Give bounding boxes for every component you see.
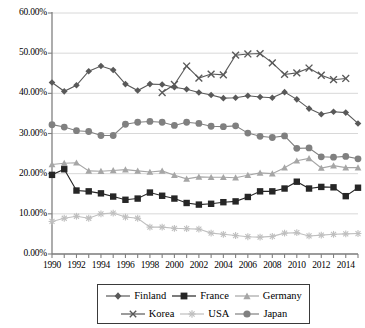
data-point: [110, 193, 116, 199]
data-point: [134, 195, 140, 201]
data-point: [281, 185, 287, 191]
line-chart: 0.00%10.00%20.00%30.00%40.00%50.00%60.00…: [0, 0, 365, 328]
data-point: [330, 184, 336, 190]
data-point: [73, 187, 79, 193]
data-point: [269, 94, 276, 101]
data-point: [98, 132, 105, 139]
data-point: [232, 198, 238, 204]
y-axis-tick-label: 0.00%: [0, 248, 47, 258]
data-point: [61, 166, 67, 172]
data-point: [208, 92, 215, 99]
plot-canvas: [0, 0, 365, 328]
data-point: [220, 199, 226, 205]
legend-label-japan: Japan: [263, 309, 287, 320]
data-point: [244, 233, 251, 240]
data-point: [294, 179, 300, 185]
legend-label-usa: USA: [208, 309, 229, 320]
legend-item-usa: USA: [179, 308, 229, 320]
data-point: [257, 94, 264, 101]
data-point: [330, 154, 337, 161]
data-point: [171, 225, 178, 232]
y-axis-tick-label: 20.00%: [0, 168, 47, 178]
data-point: [159, 119, 166, 126]
data-point: [86, 188, 92, 194]
germany-marker-icon: [234, 290, 260, 302]
series-japan: [49, 118, 362, 162]
data-point: [98, 190, 104, 196]
japan-marker-icon: [234, 308, 260, 320]
data-point: [134, 87, 141, 94]
data-point: [232, 122, 239, 129]
data-point: [159, 81, 166, 88]
legend-label-germany: Germany: [263, 291, 302, 302]
data-point: [318, 153, 325, 160]
data-point: [171, 122, 178, 129]
data-point: [171, 195, 177, 201]
legend-label-france: France: [200, 291, 229, 302]
series-finland: [49, 63, 362, 127]
chart-legend: Finland France Germany: [97, 284, 310, 324]
data-point: [330, 231, 337, 238]
legend-item-finland: Finland: [105, 290, 166, 302]
data-point: [159, 89, 166, 96]
data-point: [269, 188, 275, 194]
data-point: [330, 162, 337, 168]
data-point: [330, 109, 337, 116]
data-point: [220, 95, 227, 102]
data-point: [61, 124, 68, 131]
data-point: [98, 210, 105, 217]
data-point: [306, 65, 313, 72]
data-point: [73, 127, 80, 134]
data-point: [183, 119, 190, 126]
data-point: [306, 145, 313, 152]
data-point: [208, 201, 214, 207]
legend-row-2: Korea USA Jap: [98, 305, 309, 323]
x-axis-tick-label: 2014: [330, 260, 362, 270]
data-point: [257, 234, 264, 241]
legend-label-finland: Finland: [134, 291, 166, 302]
france-marker-icon: [171, 290, 197, 302]
data-point: [232, 232, 239, 239]
data-point: [220, 231, 227, 238]
data-point: [306, 233, 313, 240]
korea-marker-icon: [120, 308, 146, 320]
data-point: [49, 218, 56, 225]
data-point: [122, 121, 129, 128]
data-point: [134, 119, 141, 126]
data-point: [245, 194, 251, 200]
data-point: [293, 145, 300, 152]
legend-item-korea: Korea: [120, 308, 175, 320]
data-point: [208, 230, 215, 237]
data-point: [147, 81, 154, 88]
data-point: [269, 134, 276, 141]
data-point: [269, 59, 276, 66]
data-point: [147, 189, 153, 195]
data-point: [269, 233, 276, 240]
data-point: [342, 231, 349, 238]
data-point: [281, 89, 288, 96]
finland-marker-icon: [105, 290, 131, 302]
data-point: [281, 230, 288, 237]
data-point: [257, 133, 264, 140]
legend-row-1: Finland France Germany: [98, 287, 309, 305]
data-point: [318, 232, 325, 239]
data-point: [98, 63, 105, 70]
data-point: [318, 72, 325, 79]
data-point: [281, 164, 288, 170]
data-point: [293, 229, 300, 236]
data-point: [342, 153, 349, 160]
data-point: [85, 215, 92, 222]
data-point: [85, 128, 92, 135]
legend-item-germany: Germany: [234, 290, 302, 302]
data-point: [196, 89, 203, 96]
legend-item-japan: Japan: [234, 308, 287, 320]
data-point: [195, 75, 202, 82]
data-point: [122, 214, 129, 221]
data-point: [183, 225, 190, 232]
data-point: [195, 120, 202, 127]
data-point: [159, 224, 166, 231]
legend-label-korea: Korea: [149, 309, 175, 320]
data-point: [147, 224, 154, 231]
data-point: [183, 86, 190, 93]
data-point: [257, 188, 263, 194]
